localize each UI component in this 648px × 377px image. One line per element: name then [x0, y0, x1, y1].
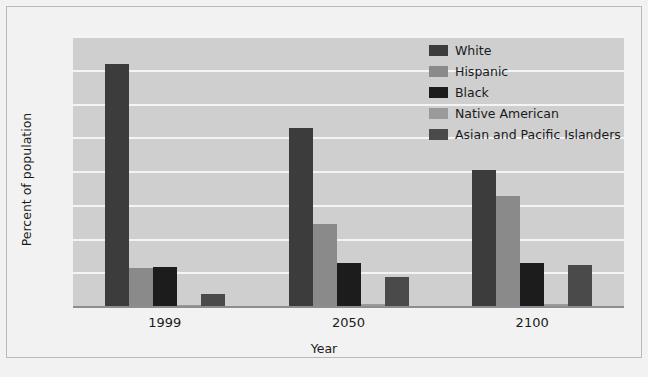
x-tick-label: 2050 [289, 315, 409, 330]
legend-swatch-icon [429, 129, 448, 140]
bar [385, 277, 409, 307]
bar [568, 265, 592, 307]
bar-group [289, 37, 409, 307]
bar [289, 128, 313, 307]
chart-legend: WhiteHispanicBlackNative AmericanAsian a… [429, 40, 619, 145]
legend-item-label: Hispanic [455, 64, 508, 79]
bar [313, 224, 337, 307]
legend-item-label: Native American [455, 106, 559, 121]
legend-swatch-icon [429, 45, 448, 56]
chart-figure: 01020304050607080 Percent of population … [0, 0, 648, 377]
bar [153, 267, 177, 308]
legend-swatch-icon [429, 66, 448, 77]
bar [201, 294, 225, 308]
bar [496, 196, 520, 307]
bar [337, 263, 361, 307]
bar [105, 64, 129, 307]
legend-item[interactable]: Hispanic [429, 61, 619, 82]
legend-swatch-icon [429, 108, 448, 119]
legend-item[interactable]: Black [429, 82, 619, 103]
bar [129, 268, 153, 307]
bar-group [105, 37, 225, 307]
legend-item-label: White [455, 43, 491, 58]
legend-item-label: Black [455, 85, 489, 100]
y-axis-title: Percent of population [19, 80, 34, 280]
x-tick-label: 1999 [105, 315, 225, 330]
x-axis-baseline [73, 306, 624, 308]
legend-swatch-icon [429, 87, 448, 98]
legend-item[interactable]: White [429, 40, 619, 61]
legend-item[interactable]: Asian and Pacific Islanders [429, 124, 619, 145]
legend-item[interactable]: Native American [429, 103, 619, 124]
x-axis-title: Year [0, 341, 648, 356]
legend-item-label: Asian and Pacific Islanders [455, 127, 621, 142]
x-tick-label: 2100 [472, 315, 592, 330]
bar [472, 170, 496, 307]
bar [520, 263, 544, 307]
